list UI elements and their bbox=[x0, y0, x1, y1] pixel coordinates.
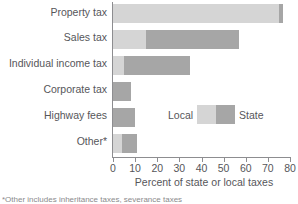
bar-other bbox=[113, 134, 137, 153]
bar-segment-local bbox=[113, 134, 122, 153]
x-axis-tick-label: 10 bbox=[129, 162, 141, 174]
bar-highway-fees bbox=[113, 108, 135, 127]
category-label-property-tax: Property tax bbox=[0, 7, 107, 18]
x-axis-tick-label: 80 bbox=[284, 162, 296, 174]
x-axis-tick-label: 0 bbox=[110, 162, 116, 174]
bar-segment-local bbox=[113, 30, 146, 49]
x-axis-tick-label: 60 bbox=[240, 162, 252, 174]
x-axis-title: Percent of state or local taxes bbox=[113, 176, 295, 188]
x-axis-tick-label: 70 bbox=[262, 162, 274, 174]
bar-segment-state bbox=[113, 108, 135, 127]
bar-individual-income-tax bbox=[113, 56, 190, 75]
bar-segment-state bbox=[279, 4, 283, 23]
x-axis-tick-label: 50 bbox=[218, 162, 230, 174]
category-label-highway-fees: Highway fees bbox=[0, 110, 107, 121]
category-label-individual-income-tax: Individual income tax bbox=[0, 58, 107, 69]
legend-label-local: Local bbox=[168, 109, 193, 121]
bar-segment-local bbox=[113, 56, 124, 75]
bar-segment-local bbox=[113, 4, 279, 23]
legend: Local State bbox=[168, 105, 264, 124]
category-label-sales-tax: Sales tax bbox=[0, 32, 107, 43]
stacked-bar-chart: Property tax Sales tax Individual income… bbox=[0, 0, 298, 204]
category-axis-labels: Property tax Sales tax Individual income… bbox=[0, 0, 110, 157]
bar-segment-state bbox=[146, 30, 239, 49]
bar-segment-state bbox=[113, 82, 131, 101]
x-axis-tick-label: 30 bbox=[174, 162, 186, 174]
bar-segment-state bbox=[124, 56, 190, 75]
footnote: *Other includes inheritance taxes, sever… bbox=[2, 195, 296, 204]
legend-swatch-local-icon bbox=[197, 105, 216, 124]
legend-label-state: State bbox=[239, 109, 264, 121]
x-axis-tick-labels: 01020304050607080 bbox=[113, 162, 293, 175]
bar-segment-state bbox=[122, 134, 137, 153]
plot-area bbox=[113, 2, 290, 157]
x-axis-tick-label: 20 bbox=[151, 162, 163, 174]
legend-swatch-state-icon bbox=[216, 105, 235, 124]
bar-sales-tax bbox=[113, 30, 239, 49]
x-axis-tick-label: 40 bbox=[196, 162, 208, 174]
bar-corporate-tax bbox=[113, 82, 131, 101]
category-label-other: Other* bbox=[0, 136, 107, 147]
category-label-corporate-tax: Corporate tax bbox=[0, 84, 107, 95]
bar-property-tax bbox=[113, 4, 283, 23]
